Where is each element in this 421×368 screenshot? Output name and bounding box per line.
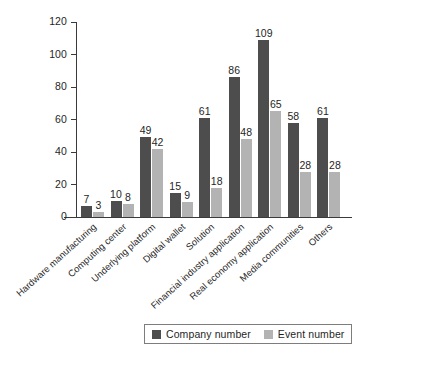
legend-label: Event number [278, 328, 345, 341]
x-axis-label: Media communities [237, 221, 305, 284]
bar-group: 5828 [288, 22, 312, 217]
bar-value-label: 42 [152, 136, 164, 148]
legend-label: Company number [166, 328, 251, 341]
bar-0[interactable]: 58 [288, 123, 299, 217]
bar-value-label: 28 [299, 159, 311, 171]
bar-1[interactable]: 9 [182, 202, 193, 217]
y-axis-tick-label: 60 [55, 113, 67, 126]
chart-legend: Company numberEvent number [144, 324, 352, 344]
bar-chart: 020406080100120 731084942159611886481096… [0, 0, 421, 368]
x-axis-label: Underlying platform [89, 221, 157, 284]
legend-swatch-icon [264, 330, 273, 339]
bar-1[interactable]: 65 [270, 111, 281, 217]
bar-1[interactable]: 3 [93, 212, 104, 217]
y-axis-tick-label: 100 [49, 48, 67, 61]
bar-value-label: 48 [240, 126, 252, 138]
bar-0[interactable]: 10 [111, 201, 122, 217]
bar-0[interactable]: 86 [229, 77, 240, 217]
bar-0[interactable]: 61 [317, 118, 328, 217]
bar-0[interactable]: 15 [170, 193, 181, 217]
bar-1[interactable]: 28 [300, 172, 311, 218]
bar-group: 6128 [317, 22, 341, 217]
bar-group: 73 [81, 22, 105, 217]
y-axis-tick-label: 20 [55, 178, 67, 191]
x-axis-label: Real economy application [188, 221, 276, 302]
y-axis-tick-label: 120 [49, 15, 67, 28]
bar-group: 6118 [199, 22, 223, 217]
bar-value-label: 28 [329, 159, 341, 171]
bar-value-label: 86 [228, 64, 240, 76]
bar-value-label: 15 [169, 180, 181, 192]
bar-0[interactable]: 61 [199, 118, 210, 217]
bar-0[interactable]: 7 [81, 206, 92, 217]
bar-value-label: 61 [199, 105, 211, 117]
legend-item[interactable]: Event number [264, 328, 345, 341]
bar-value-label: 8 [125, 191, 131, 203]
bar-0[interactable]: 109 [258, 40, 269, 217]
bar-group: 159 [170, 22, 194, 217]
y-axis-tick-label: 40 [55, 145, 67, 158]
bar-1[interactable]: 18 [211, 188, 222, 217]
x-axis-label: Others [306, 221, 334, 248]
x-axis-label: Computing center [65, 221, 128, 279]
bar-value-label: 58 [287, 110, 299, 122]
bar-value-label: 61 [317, 105, 329, 117]
bar-value-label: 7 [84, 193, 90, 205]
bar-1[interactable]: 42 [152, 149, 163, 217]
x-axis-label: Financial industry application [148, 221, 246, 311]
bar-group: 108 [111, 22, 135, 217]
bar-value-label: 65 [270, 98, 282, 110]
bar-value-label: 10 [110, 188, 122, 200]
y-axis-tick-label: 80 [55, 80, 67, 93]
bar-1[interactable]: 8 [123, 204, 134, 217]
x-axis-label: Hardware manufacturing [14, 221, 98, 299]
x-axis-line [64, 217, 352, 218]
bar-group: 10965 [258, 22, 282, 217]
bar-value-label: 3 [96, 199, 102, 211]
bar-1[interactable]: 48 [241, 139, 252, 217]
bar-group: 4942 [140, 22, 164, 217]
x-axis-label: Digital wallet [140, 221, 187, 265]
bar-value-label: 9 [184, 189, 190, 201]
x-axis-label: Solution [184, 221, 217, 252]
y-axis-tick-label: 0 [61, 210, 67, 223]
bar-group: 8648 [229, 22, 253, 217]
bar-value-label: 109 [255, 27, 273, 39]
legend-swatch-icon [152, 330, 161, 339]
bar-0[interactable]: 49 [140, 137, 151, 217]
legend-item[interactable]: Company number [152, 328, 251, 341]
plot-area: 731084942159611886481096558286128 [76, 22, 342, 217]
bar-value-label: 49 [140, 124, 152, 136]
bar-1[interactable]: 28 [329, 172, 340, 218]
bar-value-label: 18 [211, 175, 223, 187]
